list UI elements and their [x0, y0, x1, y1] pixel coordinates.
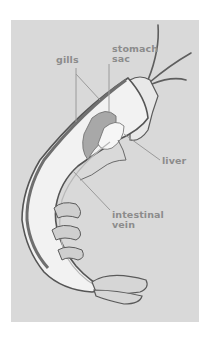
shrimp-illustration [0, 0, 207, 340]
label-stomach-sac-line2: sac [112, 54, 158, 64]
label-intestinal-vein: intestinal vein [112, 210, 164, 230]
label-intestinal-vein-line2: vein [112, 220, 164, 230]
intestinal-vein-leader [72, 170, 110, 210]
liver-leader [124, 134, 160, 160]
tail-fan [92, 275, 147, 304]
label-liver: liver [162, 156, 186, 166]
label-gills: gills [56, 55, 79, 65]
label-stomach-sac: stomach sac [112, 44, 158, 64]
gills-leader-diagonal [76, 74, 100, 100]
